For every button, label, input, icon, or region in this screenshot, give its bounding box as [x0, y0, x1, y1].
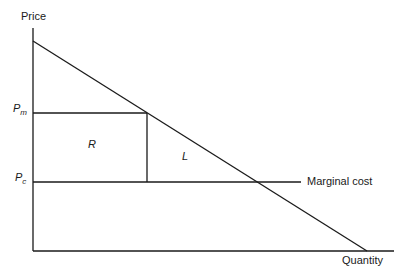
marginal-cost-label: Marginal cost — [307, 175, 372, 187]
y-axis-label: Price — [21, 10, 46, 22]
competitive-price-label: Pc — [15, 171, 26, 186]
region-l-label: L — [182, 150, 188, 162]
demand-line — [33, 41, 367, 251]
region-r-label: R — [88, 138, 96, 150]
monopoly-price-label: Pm — [13, 102, 27, 117]
diagram-canvas — [0, 0, 405, 276]
price-subscript: c — [22, 177, 26, 186]
x-axis-label: Quantity — [342, 254, 383, 266]
price-subscript: m — [20, 108, 27, 117]
